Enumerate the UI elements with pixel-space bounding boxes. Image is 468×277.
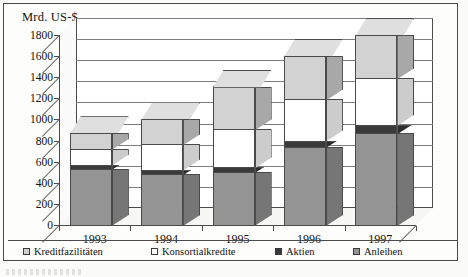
legend-swatch-icon — [151, 248, 158, 255]
bar-segment-Kreditfazilitäten[interactable] — [355, 35, 397, 79]
legend-item-Kreditfazilitäten[interactable]: Kreditfazilitäten — [23, 246, 151, 257]
bar-segment-Kreditfazilitäten[interactable] — [284, 56, 326, 100]
y-axis-tick-label: 1200 — [7, 92, 53, 104]
legend-label: Anleihen — [364, 246, 403, 257]
chart-legend: KreditfazilitätenKonsortialkrediteAktien… — [8, 240, 458, 261]
bar-segment-Anleihen[interactable] — [355, 133, 397, 226]
x-axis-tick-mark — [273, 226, 274, 231]
bar-1993[interactable] — [70, 35, 112, 225]
bar-1995[interactable] — [213, 35, 255, 225]
bar-segment-Kreditfazilitäten[interactable] — [70, 133, 112, 150]
bar-segment-Aktien[interactable] — [284, 141, 326, 148]
legend-item-Aktien[interactable]: Aktien — [275, 246, 353, 257]
bar-segment-Anleihen[interactable] — [284, 147, 326, 226]
y-axis-line — [59, 35, 60, 225]
bar-segment-side-Anleihen — [397, 133, 414, 226]
y-axis-tick-label: 1000 — [7, 113, 53, 125]
bar-segment-Aktien[interactable] — [355, 125, 397, 134]
y-axis-tick-label: 1600 — [7, 50, 53, 62]
legend-swatch-icon — [275, 248, 282, 255]
bar-1996[interactable] — [284, 35, 326, 225]
legend-swatch-icon — [23, 248, 30, 255]
y-axis-tick-label: 1800 — [7, 29, 53, 41]
bar-segment-Konsortialkredite[interactable] — [355, 78, 397, 125]
x-axis-tick-mark — [59, 226, 60, 231]
bar-segment-Anleihen[interactable] — [213, 172, 255, 226]
bar-segment-Konsortialkredite[interactable] — [213, 129, 255, 168]
scan-artifact — [6, 269, 84, 275]
y-axis-tick-label: 1400 — [7, 71, 53, 83]
legend-item-Anleihen[interactable]: Anleihen — [353, 246, 443, 257]
bar-segment-Kreditfazilitäten[interactable] — [141, 119, 183, 145]
y-axis-tick-label: 600 — [7, 156, 53, 168]
x-axis-tick-mark — [202, 226, 203, 231]
x-axis-tick-mark — [130, 226, 131, 231]
bar-segment-Konsortialkredite[interactable] — [141, 144, 183, 170]
legend-label: Konsortialkredite — [162, 246, 235, 257]
legend-label: Kreditfazilitäten — [34, 246, 103, 257]
plot-area: 020040060080010001200140016001800 199319… — [59, 35, 416, 225]
bar-1994[interactable] — [141, 35, 183, 225]
chart-frame: Mrd. US-$ 020040060080010001200140016001… — [3, 3, 458, 261]
bar-segment-Konsortialkredite[interactable] — [284, 99, 326, 141]
y-axis-tick-label: 0 — [7, 219, 53, 231]
legend-label: Aktien — [286, 246, 315, 257]
bar-1997[interactable] — [355, 35, 397, 225]
bar-segment-side-Anleihen — [326, 147, 343, 226]
y-axis-tick-label: 200 — [7, 198, 53, 210]
legend-item-Konsortialkredite[interactable]: Konsortialkredite — [151, 246, 275, 257]
legend-swatch-icon — [353, 248, 360, 255]
bar-segment-Kreditfazilitäten[interactable] — [213, 87, 255, 131]
y-axis-tick-label: 800 — [7, 135, 53, 147]
x-axis-tick-mark — [345, 226, 346, 231]
bar-segment-Anleihen[interactable] — [141, 174, 183, 226]
x-axis-tick-mark — [416, 226, 417, 231]
y-axis-title: Mrd. US-$ — [22, 10, 78, 25]
bar-segment-Konsortialkredite[interactable] — [70, 149, 112, 166]
chart-page: Mrd. US-$ 020040060080010001200140016001… — [0, 0, 468, 277]
bar-segment-Anleihen[interactable] — [70, 169, 112, 226]
y-axis-tick-label: 400 — [7, 177, 53, 189]
